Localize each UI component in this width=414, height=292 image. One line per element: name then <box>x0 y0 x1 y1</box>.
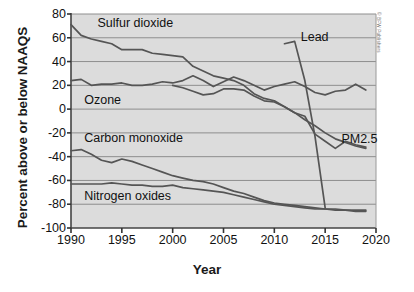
air-quality-trend-chart: Percent above or below NAAQS 806040200-2… <box>0 0 414 292</box>
x-tick-label: 2020 <box>362 233 390 247</box>
series-label-lead: Lead <box>301 30 329 44</box>
x-tick-label: 2015 <box>311 233 339 247</box>
x-tick-label: 1995 <box>108 233 136 247</box>
x-tick-label: 2000 <box>159 233 187 247</box>
x-tick-label: 2005 <box>210 233 238 247</box>
x-axis-title: Year <box>0 262 414 277</box>
series-label-pm2-5: PM2.5 <box>341 132 377 146</box>
x-tick-label: 1990 <box>57 233 85 247</box>
series-label-sulfur-dioxide: Sulfur dioxide <box>97 16 173 30</box>
copyright-notice: © BFW Publishers <box>376 12 381 53</box>
x-tick-label: 2010 <box>260 233 288 247</box>
series-label-carbon-monoxide: Carbon monoxide <box>84 131 183 145</box>
series-label-ozone: Ozone <box>84 93 121 107</box>
series-label-nitrogen-oxides: Nitrogen oxides <box>84 189 171 203</box>
